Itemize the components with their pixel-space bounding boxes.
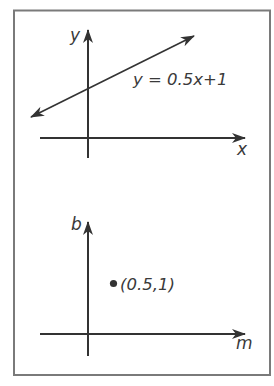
x-axis-label: x [236, 139, 248, 159]
y-axis-label: y [69, 25, 81, 45]
point-0.5-1 [110, 280, 117, 287]
figure-frame [14, 11, 270, 376]
line-equation-label: y = 0.5x+1 [132, 70, 227, 89]
mb-plane-panel: b m (0.5,1) [40, 214, 253, 356]
b-axis-label: b [71, 214, 82, 234]
hough-transform-diagram: y x y = 0.5x+1 b m (0.5,1) [0, 0, 274, 386]
point-label: (0.5,1) [120, 275, 175, 294]
m-axis-label: m [236, 333, 253, 353]
xy-plane-panel: y x y = 0.5x+1 [31, 25, 248, 159]
